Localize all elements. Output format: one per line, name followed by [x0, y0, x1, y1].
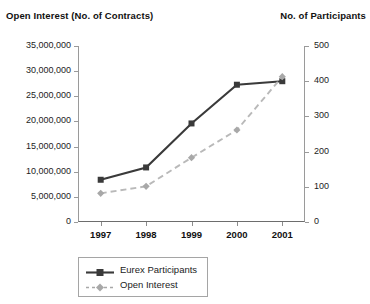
left-axis-tick-label: 20,000,000 — [26, 116, 71, 125]
left-axis-tick-label: 15,000,000 — [26, 142, 71, 151]
right-axis-tick-label: 500 — [314, 41, 329, 50]
left-axis-tick-label: 25,000,000 — [26, 91, 71, 100]
data-point-marker — [97, 190, 104, 197]
legend-item-label: Open Interest — [120, 280, 178, 290]
x-axis-tick-label: 2000 — [226, 230, 247, 240]
left-axis-tick — [74, 222, 78, 223]
legend-item[interactable]: Open Interest — [85, 277, 197, 292]
plot-area: 05,000,00010,000,00015,000,00020,000,000… — [78, 46, 305, 222]
x-axis-tick — [192, 222, 193, 226]
chart-container: Open Interest (No. of Contracts) No. of … — [0, 0, 370, 304]
left-axis-title: Open Interest (No. of Contracts) — [6, 10, 153, 21]
data-point-marker — [143, 164, 149, 170]
right-axis-tick-label: 300 — [314, 111, 329, 120]
right-axis-tick — [305, 222, 309, 223]
right-axis-tick — [305, 46, 309, 47]
data-point-marker — [234, 82, 240, 88]
left-axis-tick-label: 30,000,000 — [26, 66, 71, 75]
legend-item[interactable]: Eurex Participants — [85, 262, 197, 277]
chart-legend: Eurex ParticipantsOpen Interest — [78, 257, 208, 297]
series-line-eurex-participants — [101, 81, 283, 180]
series-line-open-interest — [101, 77, 283, 194]
right-axis-tick-label: 200 — [314, 147, 329, 156]
x-axis-tick — [237, 222, 238, 226]
x-axis-tick-label: 2001 — [272, 230, 293, 240]
right-axis-tick — [305, 187, 309, 188]
x-axis-tick — [146, 222, 147, 226]
right-axis-tick — [305, 116, 309, 117]
data-point-marker — [189, 120, 195, 126]
x-axis-tick-label: 1998 — [136, 230, 157, 240]
data-point-marker — [233, 126, 240, 133]
series-layer — [78, 46, 305, 222]
x-axis-tick — [101, 222, 102, 226]
data-point-marker — [143, 183, 150, 190]
right-axis-tick — [305, 152, 309, 153]
left-axis-tick-label: 10,000,000 — [26, 167, 71, 176]
right-axis-title: No. of Participants — [280, 10, 366, 21]
left-axis-tick-label: 35,000,000 — [26, 41, 71, 50]
right-axis-tick-label: 400 — [314, 76, 329, 85]
x-axis-tick-label: 1999 — [181, 230, 202, 240]
x-axis-tick-label: 1997 — [90, 230, 111, 240]
legend-item-label: Eurex Participants — [120, 265, 197, 275]
data-point-marker — [98, 177, 104, 183]
right-axis-tick-label: 0 — [314, 217, 319, 226]
right-axis-tick — [305, 81, 309, 82]
legend-square-marker-icon — [85, 264, 115, 275]
right-axis-tick-label: 100 — [314, 182, 329, 191]
legend-diamond-marker-icon — [85, 279, 115, 290]
left-axis-tick-label: 5,000,000 — [31, 192, 71, 201]
left-axis-tick-label: 0 — [66, 217, 71, 226]
x-axis-tick — [282, 222, 283, 226]
